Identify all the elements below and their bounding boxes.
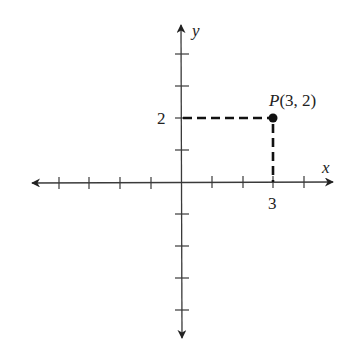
x-axis-label: x (321, 158, 330, 177)
y-axis (181, 25, 182, 338)
coordinate-plane: y x 2 3 P(3, 2) (0, 0, 348, 362)
point-label: P(3, 2) (268, 91, 316, 110)
x-axis (32, 182, 333, 183)
point-coordinates: (3, 2) (279, 91, 316, 110)
x-tick-label-3: 3 (268, 194, 277, 213)
y-tick-label-2: 2 (157, 109, 166, 128)
point-p (269, 114, 278, 123)
y-axis-label: y (190, 21, 200, 40)
point-name: P (268, 91, 279, 110)
